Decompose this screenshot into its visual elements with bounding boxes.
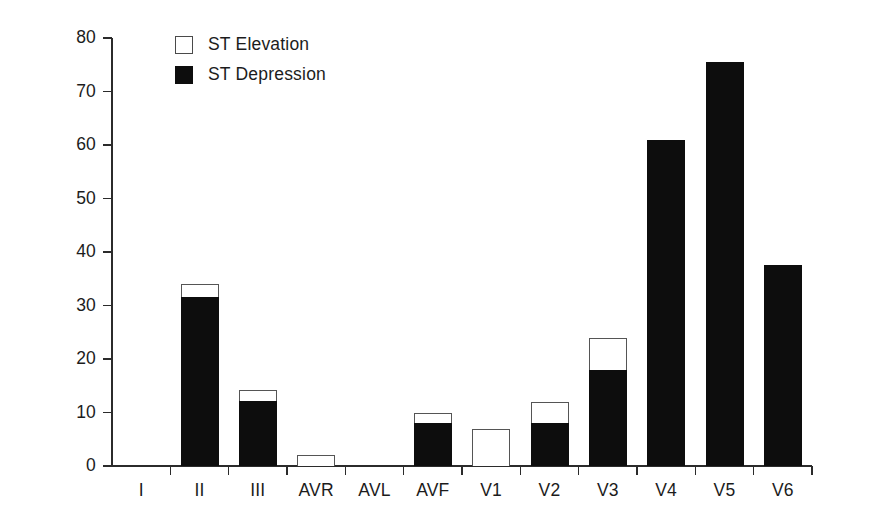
bar-segment-st-depression: [647, 140, 685, 466]
x-axis-tick-label: V2: [539, 482, 561, 500]
x-axis-tick: [695, 466, 696, 475]
bar-group: [414, 413, 452, 466]
x-axis-tick: [403, 466, 404, 475]
bar-group: [647, 140, 685, 466]
bar-group: [472, 429, 510, 466]
bar-segment-st-elevation: [589, 338, 627, 370]
bar-segment-st-depression: [531, 423, 569, 466]
bar-segment-st-depression: [239, 401, 277, 466]
bar-group: [706, 62, 744, 466]
x-axis-tick: [578, 466, 579, 475]
bar-chart: ST Elevation ST Depression 0102030405060…: [0, 0, 870, 521]
x-axis-tick: [286, 466, 287, 475]
x-axis-tick: [461, 466, 462, 475]
x-axis-tick: [753, 466, 754, 475]
x-axis-tick-label: V3: [597, 482, 619, 500]
y-axis-tick: [103, 412, 112, 414]
y-axis-tick: [103, 144, 112, 146]
y-axis-tick: [103, 251, 112, 253]
y-axis-tick-label: 80: [76, 29, 96, 47]
bar-group: [531, 402, 569, 466]
bar-segment-st-elevation: [472, 429, 510, 466]
y-axis-tick-label: 60: [76, 136, 96, 154]
x-axis-tick-label: AVR: [299, 482, 334, 500]
y-axis-tick: [103, 358, 112, 360]
bar-segment-st-depression: [181, 297, 219, 466]
bar-group: [239, 390, 277, 467]
y-axis-tick: [103, 465, 112, 467]
bar-group: [589, 338, 627, 466]
y-axis-tick-label: 0: [86, 457, 96, 475]
y-axis-tick: [103, 198, 112, 200]
y-axis-tick-label: 30: [76, 297, 96, 315]
x-axis-tick-label: V6: [772, 482, 794, 500]
bar-segment-st-depression: [764, 265, 802, 466]
x-axis-tick-label: V5: [714, 482, 736, 500]
y-axis-tick-label: 70: [76, 83, 96, 101]
bar-group: [181, 284, 219, 466]
bar-segment-st-elevation: [297, 455, 335, 466]
y-axis-tick: [103, 305, 112, 307]
x-axis-tick-label: II: [194, 482, 204, 500]
y-axis-tick: [103, 37, 112, 39]
bar-group: [764, 265, 802, 466]
y-axis-tick-label: 20: [76, 350, 96, 368]
x-axis-tick: [520, 466, 521, 475]
x-axis-tick-label: V4: [655, 482, 677, 500]
x-axis-tick-label: V1: [480, 482, 502, 500]
bar-segment-st-elevation: [414, 413, 452, 424]
bar-group: [297, 455, 335, 466]
x-axis-tick: [811, 466, 812, 475]
bar-segment-st-depression: [414, 423, 452, 466]
x-axis-tick-label: III: [250, 482, 265, 500]
y-axis-tick-label: 10: [76, 404, 96, 422]
y-axis-tick: [103, 91, 112, 93]
bar-segment-st-elevation: [239, 390, 277, 401]
plot-area: [112, 38, 812, 466]
x-axis-tick-label: I: [139, 482, 144, 500]
x-axis-tick-label: AVL: [358, 482, 390, 500]
bar-segment-st-elevation: [531, 402, 569, 423]
bar-segment-st-depression: [706, 62, 744, 466]
bar-segment-st-elevation: [181, 284, 219, 297]
x-axis-tick: [636, 466, 637, 475]
y-axis-tick-label: 40: [76, 243, 96, 261]
x-axis-tick: [345, 466, 346, 475]
x-axis-tick-label: AVF: [416, 482, 449, 500]
x-axis-tick: [170, 466, 171, 475]
y-axis-tick-label: 50: [76, 190, 96, 208]
bar-segment-st-depression: [589, 370, 627, 466]
x-axis-tick: [228, 466, 229, 475]
